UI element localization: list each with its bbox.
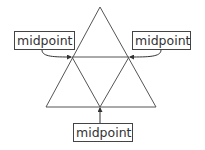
right-arrow xyxy=(130,50,161,57)
midpoint-label-bottom: midpoint xyxy=(73,123,133,142)
midpoint-label-right: midpoint xyxy=(132,31,191,50)
inner-triangle xyxy=(72,57,129,107)
midpoint-label-left: midpoint xyxy=(14,31,75,50)
left-arrow xyxy=(42,50,71,57)
